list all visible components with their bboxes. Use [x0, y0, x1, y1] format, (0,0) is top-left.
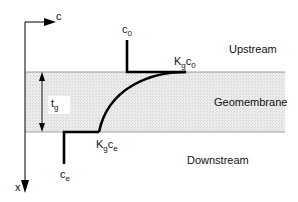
x-axis-label: x — [15, 181, 21, 193]
kg-ce-label: Kgce — [96, 138, 118, 153]
diffusion-diagram: c x tg c0 Kgc0 Kgce ce Upstream Geomembr… — [0, 0, 298, 202]
ce-label: ce — [60, 168, 71, 183]
upstream-label: Upstream — [229, 43, 277, 55]
kg-c0-label: Kgc0 — [174, 55, 196, 70]
downstream-label: Downstream — [187, 154, 249, 166]
x-axis-arrow-icon — [21, 180, 29, 193]
c0-label: c0 — [122, 23, 133, 38]
c-axis-arrow-icon — [44, 18, 56, 26]
c-axis-label: c — [56, 10, 62, 22]
geomembrane-label: Geomembrane — [214, 96, 287, 108]
